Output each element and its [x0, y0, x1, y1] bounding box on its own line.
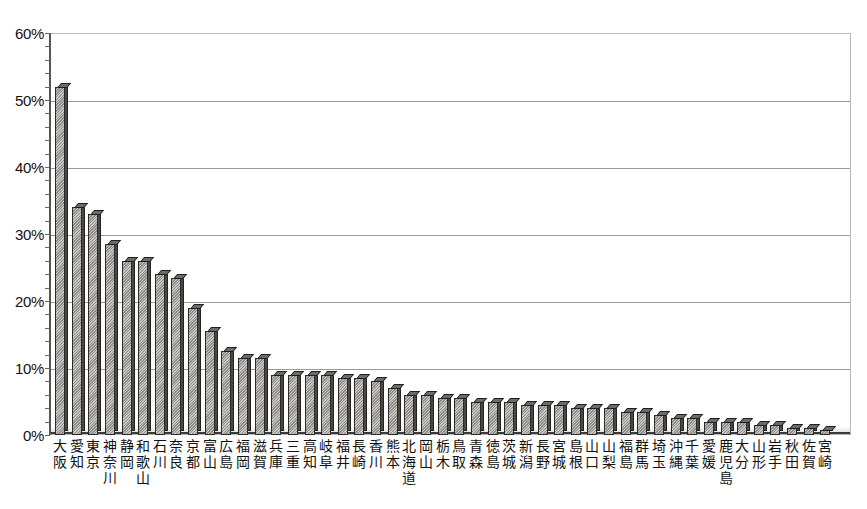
- y-minor-tick: [45, 314, 50, 315]
- bar: [354, 372, 364, 435]
- bar-face: [538, 405, 548, 435]
- bar-face: [587, 408, 597, 435]
- bar: [122, 255, 132, 435]
- bar-face: [354, 378, 364, 435]
- bar-top-3d: [756, 421, 770, 426]
- bar-face: [238, 358, 248, 435]
- bar-face: [488, 402, 498, 436]
- bar: [321, 369, 331, 435]
- bar-top-3d: [356, 374, 370, 379]
- bar-top-3d: [822, 426, 836, 431]
- bar: [604, 402, 614, 435]
- bar: [255, 352, 265, 435]
- x-label-東京: 東京: [85, 438, 101, 470]
- y-minor-tick: [45, 234, 50, 235]
- x-label-栃木: 栃木: [435, 438, 451, 470]
- x-label-兵庫: 兵庫: [268, 438, 284, 470]
- bar-top-3d: [673, 414, 687, 419]
- bar-top-3d: [606, 404, 620, 409]
- bar-face: [221, 351, 231, 435]
- bar: [238, 352, 248, 435]
- y-minor-tick: [45, 328, 50, 329]
- bar-face: [504, 402, 514, 436]
- bar: [571, 402, 581, 435]
- x-label-沖縄: 沖縄: [668, 438, 684, 470]
- x-label-長野: 長野: [535, 438, 551, 470]
- bar-top-3d: [307, 371, 321, 376]
- bar: [820, 424, 830, 435]
- x-label-千葉: 千葉: [684, 438, 700, 470]
- bar: [471, 396, 481, 436]
- bar: [654, 409, 664, 435]
- bar-top-3d: [556, 401, 570, 406]
- bar: [221, 345, 231, 435]
- x-label-山口: 山口: [584, 438, 600, 470]
- bar-top-3d: [240, 354, 254, 359]
- bar: [454, 392, 464, 435]
- bar: [271, 369, 281, 435]
- bar-face: [704, 422, 714, 435]
- x-label-新潟: 新潟: [518, 438, 534, 470]
- bar: [421, 389, 431, 435]
- bar-face: [621, 412, 631, 435]
- x-label-島根: 島根: [568, 438, 584, 470]
- bar-top-3d: [390, 384, 404, 389]
- bar-top-3d: [573, 404, 587, 409]
- x-label-富山: 富山: [202, 438, 218, 470]
- x-label-三重: 三重: [285, 438, 301, 470]
- bar-face: [371, 381, 381, 435]
- x-label-愛知: 愛知: [69, 438, 85, 470]
- x-label-宮城: 宮城: [551, 438, 567, 470]
- x-label-和歌山: 和歌山: [135, 438, 151, 486]
- bar-top-3d: [490, 398, 504, 403]
- bar-top-3d: [540, 401, 554, 406]
- y-axis: 0%10%20%30%40%50%60%: [0, 0, 48, 509]
- x-label-岐阜: 岐阜: [318, 438, 334, 470]
- bar-face: [205, 331, 215, 435]
- bar-top-3d: [373, 377, 387, 382]
- bar: [704, 416, 714, 435]
- bar-top-3d: [706, 418, 720, 423]
- bar: [721, 416, 731, 435]
- y-minor-tick: [45, 261, 50, 262]
- bar-top-3d: [689, 414, 703, 419]
- y-tick-label-10: 10%: [15, 360, 44, 377]
- y-tick-label-30: 30%: [15, 226, 44, 243]
- bar-face: [637, 412, 647, 435]
- x-label-山形: 山形: [751, 438, 767, 470]
- bar: [587, 402, 597, 435]
- bar-face: [305, 375, 315, 435]
- bar-top-3d: [589, 404, 603, 409]
- x-label-神奈川: 神奈川: [102, 438, 118, 486]
- x-label-大分: 大分: [734, 438, 750, 470]
- bar: [105, 238, 115, 435]
- bar: [205, 325, 215, 435]
- bar-top-3d: [772, 421, 786, 426]
- bar-top-3d: [739, 418, 753, 423]
- y-tick-label-0: 0%: [23, 427, 44, 444]
- x-label-茨城: 茨城: [501, 438, 517, 470]
- bar-top-3d: [656, 411, 670, 416]
- bar: [338, 372, 348, 435]
- bar-top-3d: [74, 203, 88, 208]
- x-label-山梨: 山梨: [601, 438, 617, 470]
- bar-face: [288, 375, 298, 435]
- y-minor-tick: [45, 194, 50, 195]
- y-minor-tick: [45, 46, 50, 47]
- bar-face: [72, 207, 82, 435]
- x-label-北海道: 北海道: [401, 438, 417, 486]
- y-tick-label-40: 40%: [15, 159, 44, 176]
- y-minor-tick: [45, 395, 50, 396]
- bar: [737, 416, 747, 435]
- bar: [621, 406, 631, 435]
- bar: [404, 389, 414, 435]
- x-label-秋田: 秋田: [784, 438, 800, 470]
- bar-face: [787, 428, 797, 435]
- y-minor-tick: [45, 127, 50, 128]
- y-minor-tick: [45, 207, 50, 208]
- y-tick-label-50: 50%: [15, 92, 44, 109]
- bar-face: [171, 278, 181, 435]
- bar: [438, 392, 448, 435]
- bar: [671, 412, 681, 435]
- y-minor-tick: [45, 33, 50, 34]
